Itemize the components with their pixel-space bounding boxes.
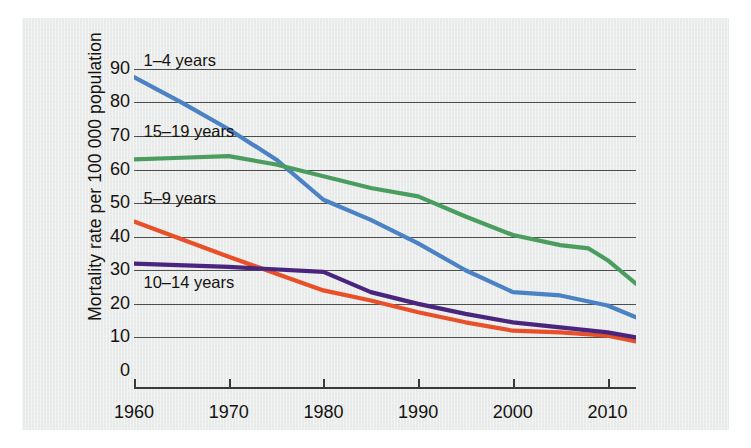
chart-figure: Mortality rate per 100 000 population 01…	[22, 18, 729, 430]
y-tick-label: 40	[84, 226, 130, 247]
series-lines	[134, 52, 636, 371]
y-tick-label: 60	[84, 159, 130, 180]
x-tick-mark	[323, 379, 325, 389]
x-tick-label: 2010	[568, 402, 648, 423]
series-label: 5–9 years	[143, 189, 215, 208]
x-tick-mark	[229, 379, 231, 389]
plot-area: 0102030405060708090 19601970198019902000…	[134, 52, 636, 371]
x-tick-mark	[513, 379, 515, 389]
series-label: 15–19 years	[143, 122, 234, 141]
x-tick-label: 1990	[378, 402, 458, 423]
x-tick-mark	[608, 379, 610, 389]
y-tick-label: 70	[84, 125, 130, 146]
series-label: 1–4 years	[143, 51, 215, 70]
y-tick-label: 80	[84, 91, 130, 112]
x-tick-mark	[418, 379, 420, 389]
x-tick-mark	[134, 379, 136, 389]
y-tick-label: 90	[84, 58, 130, 79]
series-label: 10–14 years	[143, 273, 234, 292]
y-tick-label: 30	[84, 259, 130, 280]
x-tick-label: 2000	[473, 402, 553, 423]
x-tick-label: 1980	[283, 402, 363, 423]
y-tick-label: 10	[84, 326, 130, 347]
y-tick-label: 0	[84, 360, 130, 381]
y-tick-label: 50	[84, 192, 130, 213]
x-tick-label: 1970	[189, 402, 269, 423]
y-tick-label: 20	[84, 293, 130, 314]
x-axis-line	[134, 387, 636, 389]
x-tick-label: 1960	[94, 402, 174, 423]
